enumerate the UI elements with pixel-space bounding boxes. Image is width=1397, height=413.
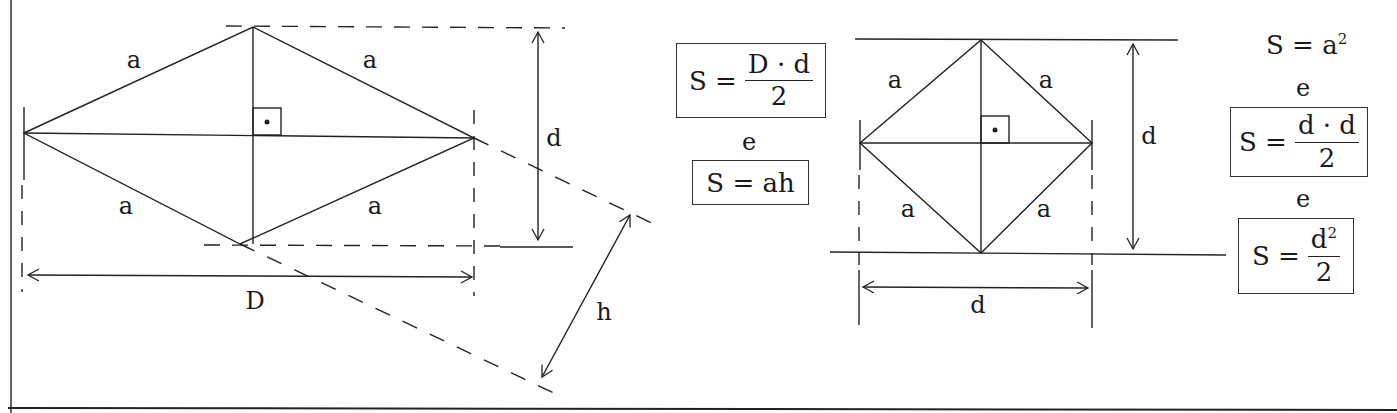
minor-diagonal-label: d — [546, 126, 561, 150]
right-angle-dot-square — [993, 128, 998, 133]
exponent: 2 — [1327, 225, 1337, 243]
rhombus-side-label-bottom-left: a — [119, 194, 133, 218]
major-diagonal-label: D — [245, 289, 264, 313]
conjunction-e-1: e — [1296, 74, 1310, 102]
fraction-denominator: 2 — [1316, 257, 1333, 286]
fraction-denominator: 2 — [771, 81, 788, 110]
fraction-numerator: d2 — [1308, 226, 1340, 256]
formula-lhs: S = — [1239, 127, 1287, 157]
rhombus-side-label-bottom-right: a — [368, 194, 382, 218]
rhombus-side-label-top-right: a — [363, 48, 377, 72]
fraction: D · d 2 — [745, 51, 813, 111]
formula-lhs: S = a — [1266, 30, 1338, 60]
numerator-base: d — [1311, 224, 1328, 254]
height-label: h — [596, 300, 611, 324]
fraction: d2 2 — [1308, 226, 1340, 286]
formula-lhs: S = — [689, 66, 737, 96]
square-side-label-top-right: a — [1039, 68, 1053, 92]
fraction-numerator: d · d — [1295, 112, 1359, 142]
conjunction-e: e — [742, 128, 756, 156]
fraction: d · d 2 — [1295, 112, 1359, 172]
fraction-numerator: D · d — [745, 51, 813, 81]
square-area-formula-side: S = a2 — [1266, 30, 1347, 60]
square-area-formula-diagonals: S = d · d 2 — [1230, 107, 1368, 177]
rhombus-area-formula-diagonals: S = D · d 2 — [676, 43, 826, 118]
rhombus-side-label-top-left: a — [127, 48, 141, 72]
right-angle-dot — [265, 120, 270, 125]
fraction-denominator: 2 — [1319, 143, 1336, 172]
square-side-label-bottom-left: a — [901, 197, 915, 221]
bottom-frame-line — [8, 408, 1397, 410]
exponent: 2 — [1338, 30, 1348, 48]
formula-lhs: S = — [1252, 241, 1300, 271]
square-area-formula-diagonal-squared: S = d2 2 — [1238, 218, 1354, 294]
square-vertical-diagonal-label: d — [1141, 124, 1156, 148]
rhombus-shape — [24, 27, 474, 244]
square-horizontal-diagonal-label: d — [970, 293, 985, 317]
rhombus-area-formula-height: S = ah — [692, 160, 809, 205]
conjunction-e-2: e — [1296, 185, 1310, 213]
square-side-label-top-left: a — [888, 68, 902, 92]
square-side-label-bottom-right: a — [1037, 197, 1051, 221]
